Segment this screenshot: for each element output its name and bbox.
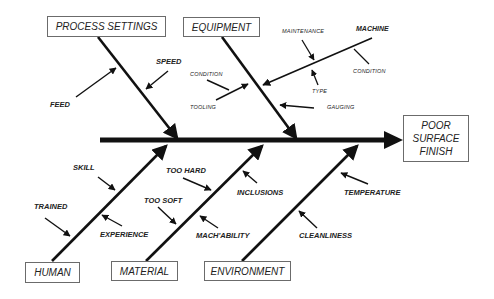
- arrow-gauging: [280, 105, 314, 108]
- category-process-settings: PROCESS SETTINGS: [47, 16, 166, 37]
- cause-tooling: TOOLING: [190, 104, 216, 110]
- cause-gauging: GAUGING: [327, 104, 354, 110]
- category-label: EQUIPMENT: [192, 22, 251, 33]
- arrow-feed: [76, 68, 116, 97]
- cause-skill: SKILL: [73, 163, 95, 172]
- bone-process-settings: [98, 37, 177, 138]
- cause-cleanliness: CLEANLINESS: [299, 231, 352, 240]
- category-equipment: EQUIPMENT: [183, 17, 260, 37]
- cause-inclusions: INCLUSIONS: [237, 188, 283, 197]
- cause-trained: TRAINED: [34, 202, 67, 211]
- category-label: HUMAN: [34, 267, 71, 278]
- effect-line-1: POOR: [421, 119, 450, 132]
- category-material: MATERIAL: [111, 261, 178, 281]
- category-label: ENVIRONMENT: [211, 266, 285, 277]
- arrow-experience: [102, 215, 122, 226]
- arrow-type: [312, 70, 318, 85]
- cause-maintenance: MAINTENANCE: [282, 28, 324, 34]
- effect-line-3: FINISH: [420, 145, 453, 158]
- arrow-temperature: [341, 173, 368, 184]
- arrow-machine-condition: [354, 49, 369, 64]
- arrow-skill: [98, 177, 115, 190]
- category-label: PROCESS SETTINGS: [56, 21, 158, 32]
- arrow-cleanliness: [299, 211, 317, 228]
- spine-arrow: [100, 131, 403, 149]
- arrow-machability: [200, 216, 218, 228]
- arrow-maintenance: [302, 40, 314, 60]
- bone-machine: [263, 38, 372, 85]
- category-environment: ENVIRONMENT: [204, 261, 291, 281]
- cause-too-soft: TOO SOFT: [144, 196, 182, 205]
- arrow-speed: [146, 71, 168, 89]
- arrow-condition: [207, 80, 229, 90]
- effect-box: POOR SURFACE FINISH: [403, 115, 469, 162]
- cause-experience: EXPERIENCE: [100, 230, 148, 239]
- effect-line-2: SURFACE: [412, 132, 459, 145]
- cause-type: TYPE: [312, 88, 327, 94]
- cause-condition: CONDITION: [190, 71, 223, 77]
- cause-too-hard: TOO HARD: [166, 166, 206, 175]
- bone-environment: [242, 146, 357, 261]
- arrow-inclusions: [243, 171, 257, 183]
- sub-branch-machine: MACHINE: [356, 25, 389, 32]
- category-label: MATERIAL: [120, 266, 169, 277]
- bone-equipment: [222, 37, 296, 138]
- arrow-too-soft: [158, 207, 176, 224]
- category-human: HUMAN: [25, 262, 80, 283]
- arrow-trained: [45, 218, 70, 236]
- arrow-too-hard: [183, 178, 211, 190]
- cause-temperature: TEMPERATURE: [344, 188, 401, 197]
- cause-machability: MACH'ABILITY: [196, 231, 249, 240]
- cause-speed: SPEED: [156, 57, 181, 66]
- cause-feed: FEED: [50, 100, 70, 109]
- cause-machine-condition: CONDITION: [353, 68, 386, 74]
